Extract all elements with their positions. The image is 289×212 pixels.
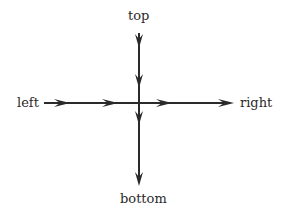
vertical-flow-line — [135, 33, 143, 186]
label-left: left — [17, 96, 39, 109]
label-bottom: bottom — [120, 192, 167, 205]
direction-diagram: top left right bottom — [0, 0, 289, 212]
label-right: right — [240, 96, 272, 109]
label-top: top — [128, 9, 149, 22]
